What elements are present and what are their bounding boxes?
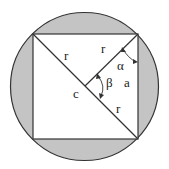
- label-alpha: α: [117, 58, 124, 73]
- label-r-left: r: [64, 48, 69, 63]
- label-c: c: [73, 86, 79, 101]
- label-r-lower: r: [116, 101, 121, 116]
- label-beta: β: [106, 75, 113, 90]
- diagram-canvas: r r r c α β a: [0, 0, 169, 169]
- label-a: a: [124, 75, 130, 90]
- geometry-figure: r r r c α β a: [0, 0, 169, 169]
- label-r-upper: r: [101, 41, 106, 56]
